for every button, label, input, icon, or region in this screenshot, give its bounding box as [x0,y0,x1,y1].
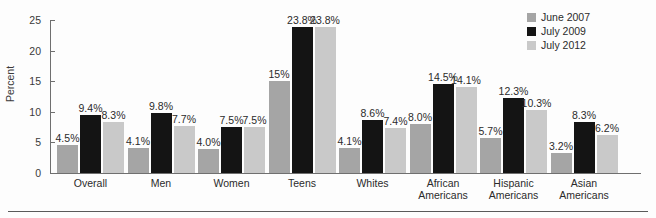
bottom-divider-rule [8,211,648,212]
bar-value-label: 8.0% [408,112,432,123]
bar-value-label: 10.3% [522,98,552,109]
bar-chart-figure: Percent 0510152025 4.5%9.4%8.3%4.1%9.8%7… [0,0,656,218]
bar-group: 4.1%9.8%7.7% [128,20,195,173]
bar [151,113,172,173]
bar-value-label: 4.1% [126,136,150,147]
bar-group: 4.1%8.6%7.4% [339,20,406,173]
bar [385,128,406,173]
y-tick-label: 20 [0,46,41,56]
bar-value-label: 8.3% [572,110,596,121]
bar [198,149,219,173]
bar-value-label: 6.2% [595,123,619,134]
bar-value-label: 7.5% [243,115,267,126]
y-tick-label: 5 [0,137,41,147]
bar-value-label: 7.5% [220,115,244,126]
legend-swatch-july-2012 [527,41,536,50]
bar-value-label: 8.6% [361,108,385,119]
bar-value-label: 3.2% [549,141,573,152]
bar [315,27,336,173]
bar-value-label: 4.5% [56,133,80,144]
y-tick-label-wrap: 25 [0,15,50,25]
legend-swatch-june-2007 [527,13,536,22]
bar-value-label: 9.8% [149,101,173,112]
bar-group: 4.5%9.4%8.3% [57,20,124,173]
y-tick-label: 10 [0,107,41,117]
bar [269,81,290,173]
bar [456,87,477,173]
bar [103,122,124,173]
bar [57,145,78,173]
bar-value-label: 8.3% [102,110,126,121]
bar [551,153,572,173]
bar [480,138,501,173]
bar-value-label: 14.1% [451,75,481,86]
bar-group: 8.0%14.5%14.1% [410,20,477,173]
y-tick-label: 15 [0,76,41,86]
bar [292,27,313,173]
bar [503,98,524,173]
legend-item-label: June 2007 [541,11,590,23]
bar-value-label: 7.4% [384,116,408,127]
x-axis-category-label: AsianAmericans [529,178,639,201]
bar [339,148,360,173]
legend-item-label: July 2009 [541,25,586,37]
bar [244,127,265,173]
bar [174,126,195,173]
bar-value-label: 7.7% [172,114,196,125]
y-tick-label: 25 [0,15,41,25]
y-tick-label-wrap: 0 [0,168,50,178]
bar [128,148,149,173]
bar-group: 4.0%7.5%7.5% [198,20,265,173]
y-tick-mark [50,173,55,174]
bar [362,120,383,173]
bar-value-label: 15% [268,69,289,80]
bar-value-label: 23.8% [310,15,340,26]
legend-item-label: July 2012 [541,39,586,51]
category-label-line: Asian [529,178,639,190]
category-label-line: Americans [529,190,639,202]
bar-value-label: 9.4% [79,103,103,114]
bar [597,135,618,173]
bar [433,84,454,173]
bar [80,115,101,173]
y-tick-label-wrap: 15 [0,76,50,86]
bar-value-label: 4.0% [197,137,221,148]
bar-group: 5.7%12.3%10.3% [480,20,547,173]
bar [574,122,595,173]
y-tick-label-wrap: 10 [0,107,50,117]
legend-swatch-july-2009 [527,27,536,36]
x-axis-line [50,173,641,174]
bar-value-label: 12.3% [499,86,529,97]
bar [410,124,431,173]
y-tick-label: 0 [0,168,41,178]
bar [526,110,547,173]
y-tick-label-wrap: 20 [0,46,50,56]
y-tick-label-wrap: 5 [0,137,50,147]
bar-value-label: 5.7% [479,126,503,137]
bar-group: 15%23.8%23.8% [269,20,336,173]
bar-value-label: 4.1% [338,136,362,147]
bar [221,127,242,173]
